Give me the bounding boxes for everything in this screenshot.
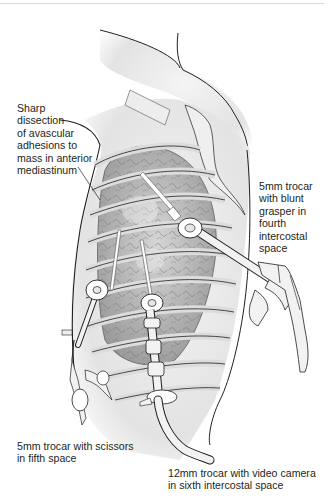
- label-camera-port: 12mm trocar with video camera in sixth i…: [168, 467, 330, 492]
- label-sharp-dissection: Sharp dissection of avascular adhesions …: [17, 102, 107, 176]
- label-blunt-grasper-port: 5mm trocar with blunt grasper in fourth …: [259, 180, 331, 254]
- label-scissors-port: 5mm trocar with scissors in fifth space: [17, 440, 177, 465]
